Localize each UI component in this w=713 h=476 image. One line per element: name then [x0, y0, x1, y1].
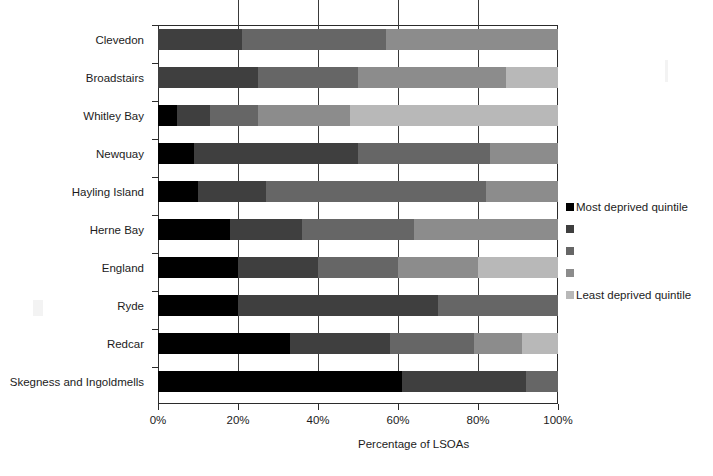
bar-segment [390, 333, 474, 354]
bar-segment [302, 219, 414, 240]
bar-segment [258, 67, 358, 88]
category-label-herne-bay: Herne Bay [90, 224, 144, 236]
bar-segment [177, 105, 210, 126]
bar-segment [350, 105, 558, 126]
bar-segment [158, 105, 177, 126]
bar-segment [238, 257, 318, 278]
bar-row [158, 257, 558, 278]
xtick-label-20: 20% [226, 414, 249, 426]
category-axis: Clevedon Broadstairs Whitley Bay Newquay… [0, 25, 152, 404]
legend-entry-most-deprived: Most deprived quintile [566, 196, 691, 218]
bar-segment [506, 67, 558, 88]
xtick-label-60: 60% [386, 414, 409, 426]
bar-series-container [158, 25, 558, 404]
category-label-newquay: Newquay [96, 148, 144, 160]
xtick-label-80: 80% [466, 414, 489, 426]
bar-segment [194, 143, 358, 164]
legend-entry-quintile-4 [566, 262, 691, 284]
legend-entry-quintile-3 [566, 240, 691, 262]
legend-swatch-icon [566, 291, 574, 299]
legend-entry-quintile-2 [566, 218, 691, 240]
xtick-mark-80 [478, 404, 479, 410]
xtick-label-40: 40% [306, 414, 329, 426]
xtick-mark-0 [158, 404, 159, 410]
bar-segment [158, 29, 242, 50]
bar-segment [238, 295, 438, 316]
bar-segment [438, 295, 558, 316]
legend-label: Most deprived quintile [576, 201, 688, 213]
legend-swatch-icon [566, 269, 574, 277]
bar-segment [158, 219, 230, 240]
bar-segment [490, 143, 558, 164]
scan-artifact [665, 60, 668, 82]
category-label-clevedon: Clevedon [95, 34, 144, 46]
bar-segment [486, 181, 558, 202]
category-label-hayling-island: Hayling Island [72, 186, 144, 198]
bar-segment [242, 29, 386, 50]
xtick-mark-60 [398, 404, 399, 410]
legend-swatch-icon [566, 203, 574, 211]
bar-row [158, 181, 558, 202]
bar-segment [158, 371, 402, 392]
bar-segment [158, 295, 238, 316]
xtick-mark-100 [558, 404, 559, 410]
legend-swatch-icon [566, 247, 574, 255]
category-label-whitley-bay: Whitley Bay [83, 110, 144, 122]
xtick-mark-20 [238, 404, 239, 410]
bar-row [158, 105, 558, 126]
legend-swatch-icon [566, 225, 574, 233]
bar-segment [158, 333, 290, 354]
bar-segment [526, 371, 558, 392]
stacked-bar-chart: Clevedon Broadstairs Whitley Bay Newquay… [0, 0, 713, 476]
bar-segment [318, 257, 398, 278]
bar-segment [158, 181, 198, 202]
x-axis-title: Percentage of LSOAs [358, 438, 469, 450]
category-label-broadstairs: Broadstairs [86, 72, 144, 84]
bar-segment [398, 257, 478, 278]
category-label-ryde: Ryde [117, 300, 144, 312]
xtick-mark-40 [318, 404, 319, 410]
scan-artifact [33, 300, 43, 316]
xtick-label-0: 0% [150, 414, 167, 426]
category-label-redcar: Redcar [107, 338, 144, 350]
bar-segment [158, 67, 258, 88]
bar-segment [522, 333, 558, 354]
bar-segment [402, 371, 526, 392]
legend-label: Least deprived quintile [576, 289, 691, 301]
bar-segment [474, 333, 522, 354]
bar-segment [158, 143, 194, 164]
bar-row [158, 219, 558, 240]
bar-row [158, 143, 558, 164]
bar-segment [158, 257, 238, 278]
bar-segment [258, 105, 350, 126]
bar-row [158, 371, 558, 392]
bar-segment [414, 219, 558, 240]
bar-row [158, 333, 558, 354]
bar-segment [478, 257, 558, 278]
bar-segment [386, 29, 558, 50]
bar-row [158, 67, 558, 88]
legend-entry-least-deprived: Least deprived quintile [566, 284, 691, 306]
bar-row [158, 29, 558, 50]
bar-row [158, 295, 558, 316]
xtick-label-100: 100% [543, 414, 572, 426]
category-label-england: England [102, 262, 144, 274]
bar-segment [266, 181, 486, 202]
bar-segment [198, 181, 266, 202]
category-label-skegness-and-ingoldmells: Skegness and Ingoldmells [10, 376, 144, 388]
bar-segment [358, 67, 506, 88]
legend: Most deprived quintile Least deprived qu… [566, 196, 691, 306]
bar-segment [358, 143, 490, 164]
bar-segment [290, 333, 390, 354]
bar-segment [230, 219, 302, 240]
bar-segment [210, 105, 258, 126]
